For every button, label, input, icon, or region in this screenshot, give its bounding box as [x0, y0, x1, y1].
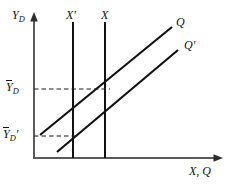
- y-tick-label-lower: YD': [3, 128, 18, 143]
- y-tick-label-upper: YD: [6, 81, 19, 96]
- y-tick-lower-prime: ': [16, 127, 19, 141]
- axis-group: [30, 12, 223, 162]
- curve-q-prime-label: Q': [184, 39, 195, 51]
- y-axis-label-subscript: D: [19, 15, 25, 24]
- vertical-line-x-prime-label: X': [66, 9, 76, 21]
- y-tick-upper-base: Y: [6, 81, 13, 93]
- curve-q-label: Q: [176, 16, 185, 28]
- x-axis-arrowhead: [214, 154, 224, 162]
- y-tick-lower-base: Y: [3, 128, 10, 140]
- x-axis-label: X, Q: [189, 165, 211, 177]
- diagram-canvas: [0, 0, 232, 185]
- y-axis-label-base: Y: [12, 8, 19, 22]
- y-tick-upper-subscript: D: [13, 87, 19, 96]
- vertical-lines-group: [73, 22, 105, 158]
- curve-q-prime: [57, 50, 178, 152]
- y-axis-arrowhead: [30, 12, 38, 22]
- y-axis-label: YD: [12, 9, 25, 24]
- vertical-line-x-label: X: [101, 9, 108, 21]
- economics-diagram: YD X, Q X' X Q Q' YD YD': [0, 0, 232, 185]
